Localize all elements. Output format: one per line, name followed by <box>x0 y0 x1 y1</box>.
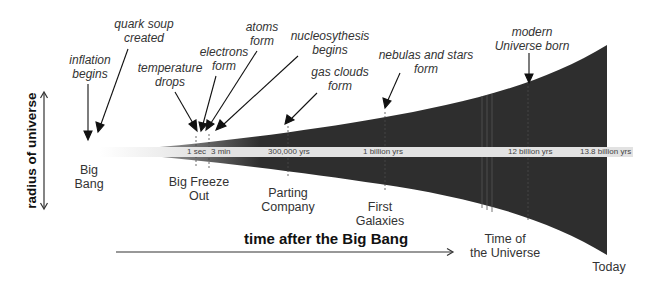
era-label-first-galaxies: First Galaxies <box>352 200 408 229</box>
era-label-big-bang: Big Bang <box>66 163 112 192</box>
event-label-electrons-form: electrons form <box>196 46 252 74</box>
tick-3-min: 3 min <box>211 147 231 157</box>
y-axis-arrow-icon <box>41 92 48 209</box>
event-label-gas-clouds-form: gas clouds form <box>305 66 375 94</box>
event-label-temperature-drops: temperature drops <box>135 62 205 90</box>
x-axis-arrow-icon <box>116 249 453 256</box>
event-label-modern-universe-born: modern Universe born <box>492 26 572 54</box>
tick-1-sec: 1 sec <box>187 147 206 157</box>
era-label-today: Today <box>588 260 630 274</box>
y-axis-title: radius of universe <box>24 86 39 216</box>
x-axis-title: time after the Big Bang <box>244 230 408 247</box>
era-label-time-of-the-universe: Time of the Universe <box>465 232 545 261</box>
event-label-nucleosythesis-begins: nucleosythesis begins <box>285 30 375 58</box>
event-label-atoms-form: atoms form <box>240 21 284 49</box>
event-label-nebulas-stars-form: nebulas and stars form <box>370 49 482 77</box>
era-label-parting-company: Parting Company <box>255 186 321 215</box>
tick-12-billion-yrs: 12 billion yrs <box>508 147 552 157</box>
tick-1-billion-yrs: 1 billion yrs <box>363 147 403 157</box>
universe-timeline-diagram: radius of universe time after the Big Ba… <box>0 0 655 281</box>
era-label-big-freeze-out: Big Freeze Out <box>167 175 231 204</box>
tick-300000-yrs: 300,000 yrs <box>268 147 310 157</box>
event-label-inflation-begins: inflation begins <box>66 54 114 82</box>
tick-13-8-billion-yrs: 13.8 billion yrs <box>580 147 631 157</box>
event-label-quark-soup: quark soup created <box>110 18 178 46</box>
